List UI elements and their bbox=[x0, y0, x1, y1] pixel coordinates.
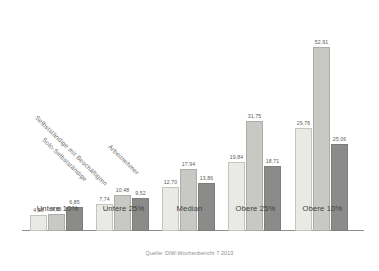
bar-value-label: 9,52 bbox=[135, 190, 146, 196]
bar-value-label: 10,48 bbox=[116, 187, 129, 193]
bar-value-label: 31,75 bbox=[248, 113, 261, 119]
bar-group-bars: 12,70 17,94 13,86 bbox=[162, 36, 215, 231]
bar-value-label: 18,71 bbox=[266, 158, 279, 164]
x-axis-label-median: Median bbox=[162, 204, 217, 213]
bar-value-label: 12,70 bbox=[164, 179, 177, 185]
bar-solo-selbststaendige[interactable]: 19,84 bbox=[228, 162, 245, 231]
bar-arbeitnehmer[interactable]: 25,06 bbox=[331, 144, 348, 231]
bar-arbeitnehmer[interactable]: 18,71 bbox=[264, 166, 281, 231]
x-axis-label-obere-25: Obere 25% bbox=[228, 204, 283, 213]
bar-group-obere-10: 29,76 52,91 25,06 Obere 10% bbox=[295, 36, 350, 231]
bar-value-label: 29,76 bbox=[297, 120, 310, 126]
chart-container: 4,58 4,96 6,85 Untere 10% 7,74 10,48 bbox=[0, 0, 379, 271]
bar-solo-selbststaendige[interactable]: 4,58 bbox=[30, 215, 47, 231]
plot-area: 4,58 4,96 6,85 Untere 10% 7,74 10,48 bbox=[0, 0, 379, 271]
bar-group-bars: 7,74 10,48 9,52 bbox=[96, 36, 149, 231]
bar-value-label: 52,91 bbox=[315, 39, 328, 45]
source-note: Quelle: DIW-Wochenbericht 7.2013 bbox=[0, 250, 379, 256]
bar-value-label: 19,84 bbox=[230, 154, 243, 160]
bar-arbeitnehmer[interactable]: 9,52 bbox=[132, 198, 149, 231]
bar-selbststaendige-mit-beschaeftigten[interactable]: 31,75 bbox=[246, 121, 263, 231]
x-axis-label-untere-10: Untere 10% bbox=[30, 204, 85, 213]
bar-group-median: 12,70 17,94 13,86 Median bbox=[162, 36, 217, 231]
x-axis-label-untere-25: Untere 25% bbox=[96, 204, 151, 213]
bar-group-bars: 19,84 31,75 18,71 bbox=[228, 36, 281, 231]
bar-selbststaendige-mit-beschaeftigten[interactable]: 10,48 bbox=[114, 195, 131, 231]
bar-group-untere-25: 7,74 10,48 9,52 Untere 25% bbox=[96, 36, 151, 231]
bar-value-label: 17,94 bbox=[182, 161, 195, 167]
bar-selbststaendige-mit-beschaeftigten[interactable]: 17,94 bbox=[180, 169, 197, 231]
bar-value-label: 25,06 bbox=[333, 136, 346, 142]
bar-group-bars: 29,76 52,91 25,06 bbox=[295, 36, 348, 231]
bar-group-obere-25: 19,84 31,75 18,71 Obere 25% bbox=[228, 36, 283, 231]
bar-selbststaendige-mit-beschaeftigten[interactable]: 4,96 bbox=[48, 214, 65, 231]
x-axis-label-obere-10: Obere 10% bbox=[295, 204, 350, 213]
bar-value-label: 7,74 bbox=[99, 196, 110, 202]
bar-value-label: 13,86 bbox=[200, 175, 213, 181]
bar-solo-selbststaendige[interactable]: 29,76 bbox=[295, 128, 312, 231]
